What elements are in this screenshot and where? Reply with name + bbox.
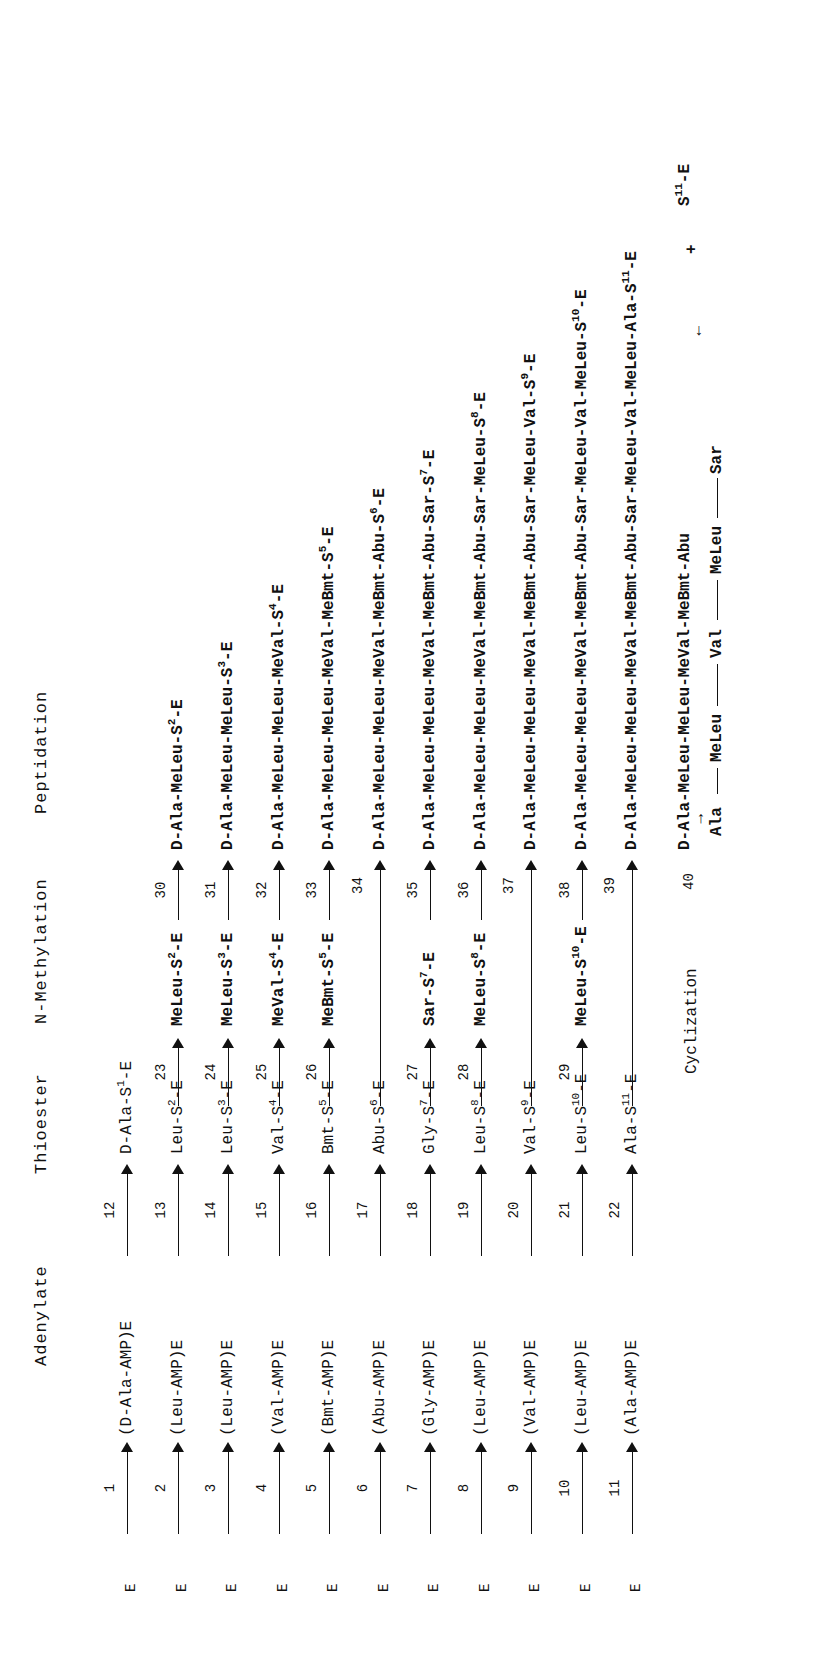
step-number: 8 [457,1442,471,1534]
step-number: 20 [507,1164,521,1256]
peptidyl-thioester-position: 9 [519,373,531,380]
thioester-text: Leu-S [169,1106,187,1154]
step-number: 32 [255,860,269,920]
arrow-shaft [430,1450,431,1534]
methylated-thioester-text: Sar-S [421,978,439,1026]
arrow-shaft [430,1046,431,1106]
adenylation-arrow: 10 [573,1442,591,1534]
arrow-shaft [531,868,532,1106]
thioesterification-arrow: 22 [623,1164,641,1256]
methylated-thioester-suffix: -E [320,933,338,952]
arrow-head-icon [525,1164,537,1174]
adenylation-arrow: 7 [421,1442,439,1534]
methylated-thioester-position: 2 [166,952,178,959]
thioesterification-arrow: 16 [320,1164,338,1256]
arrow-shaft [329,868,330,920]
n-methylation-arrow: 24 [219,1038,237,1106]
step-number: 22 [608,1164,622,1256]
n-methylation-arrow: 27 [421,1038,439,1106]
step-number: 2 [154,1442,168,1534]
step-number: 29 [558,1038,572,1106]
methylated-thioester-suffix: -E [472,933,490,952]
arrow-shaft [481,1046,482,1106]
methylated-thioester: MeLeu-S8-E [472,933,490,1026]
thioester: D-Ala-S1-E [118,1061,136,1154]
arrow-head-icon [475,860,487,870]
thioesterification-arrow: 12 [118,1164,136,1256]
peptidyl-thioester-suffix: -E [270,584,288,603]
arrow-shaft [582,1046,583,1106]
bond-line [717,478,718,518]
methylated-thioester-suffix: -E [421,952,439,971]
step-number: 37 [500,877,518,894]
thioester-text: Ala-S [623,1106,641,1154]
arrow-head-icon [424,1164,436,1174]
methylated-thioester: MeLeu-S3-E [219,933,237,1026]
arrow-shaft [228,1046,229,1106]
aminoacyl-adenylate: (D-Ala-AMP)E [118,1321,136,1436]
arrow-head-icon [475,1038,487,1048]
step-number: 27 [406,1038,420,1106]
step-number: 39 [601,877,619,894]
arrow-head-icon [374,1164,386,1174]
step-number: 15 [255,1164,269,1256]
step-number: 23 [154,1038,168,1106]
peptidyl-thioester-position: 2 [166,719,178,726]
step-number: 19 [457,1164,471,1256]
step-number: 9 [507,1442,521,1534]
arrow-head-icon [121,1442,133,1452]
arrow-head-icon [273,1442,285,1452]
cyclosporin-biosynthesis-diagram: Adenylate Thioester N-Methylation Peptid… [0,0,828,1674]
aminoacyl-adenylate: (Abu-AMP)E [371,1340,389,1436]
peptidyl-thioester-suffix: -E [371,488,389,507]
thioesterification-arrow: 13 [169,1164,187,1256]
thioesterification-arrow: 20 [522,1164,540,1256]
thioester-text: Val-S [522,1106,540,1154]
arrow-shaft [531,1172,532,1256]
arrow-shaft [279,1450,280,1534]
arrow-shaft [380,1172,381,1256]
aminoacyl-adenylate: (Leu-AMP)E [169,1340,187,1436]
cyclic-meleu-1: MeLeu [708,714,726,762]
step-number: 16 [305,1164,319,1256]
methylated-thioester-text: MeVal-S [270,959,288,1026]
plus-sign: + [683,244,701,254]
arrow-shaft [279,868,280,920]
peptidyl-thioester: D-Ala-MeLeu-S2-E [169,699,187,850]
arrow-head-icon [525,1442,537,1452]
peptidyl-thioester-suffix: -E [522,354,540,373]
peptidyl-thioester-text: D-Ala-MeLeu-MeLeu-MeVal-MeBmt-Abu-Sar-Me… [522,380,540,850]
arrow-head-icon [273,1164,285,1174]
thioester-text: Val-S [270,1106,288,1154]
peptidyl-thioester: D-Ala-MeLeu-MeLeu-MeVal-MeBmt-Abu-Sar-Me… [573,290,591,851]
peptidyl-thioester-position: 6 [368,507,380,514]
n-methylation-arrow: 23 [169,1038,187,1106]
enzyme-label: E [173,1584,191,1592]
arrow-shaft [481,1450,482,1534]
methylated-thioester: MeLeu-S2-E [169,933,187,1026]
arrow-shaft [329,1450,330,1534]
step-number: 6 [356,1442,370,1534]
peptidation-arrow: 35 [421,860,439,920]
adenylation-arrow: 8 [472,1442,490,1534]
peptidyl-thioester-position: 8 [469,411,481,418]
methylated-thioester-text: MeBmt-S [320,959,338,1026]
arrow-shaft [228,868,229,920]
n-methylation-arrow: 29 [573,1038,591,1106]
methylated-thioester: MeVal-S4-E [270,933,288,1026]
down-arrow-icon: ↓ [694,323,704,339]
released-enzyme-thiol: S11-E [676,164,694,206]
adenylation-arrow: 5 [320,1442,338,1534]
step-number: 10 [558,1442,572,1534]
peptidyl-thioester-position: 11 [620,270,632,283]
aminoacyl-adenylate: (Leu-AMP)E [472,1340,490,1436]
thioester-text: Leu-S [472,1106,490,1154]
step-number: 11 [608,1442,622,1534]
peptidyl-thioester-text: D-Ala-MeLeu-MeLeu-S [219,668,237,850]
arrow-shaft [279,1046,280,1106]
peptidyl-thioester-suffix: -E [169,699,187,718]
peptidyl-thioester: D-Ala-MeLeu-MeLeu-MeVal-S4-E [270,584,288,850]
enzyme-label: E [375,1584,393,1592]
step-number: 38 [558,860,572,920]
arrow-head-icon [626,1442,638,1452]
